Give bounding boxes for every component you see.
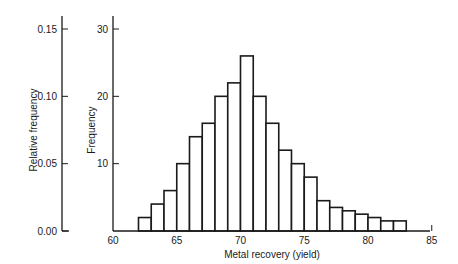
x-tick-label: 60 [107, 235, 119, 246]
histogram-bar [279, 150, 292, 231]
histogram-bar [343, 211, 356, 231]
histogram-bar [177, 164, 190, 231]
histogram-chart: 0.000.050.100.15 102030 606570758085 Met… [0, 0, 458, 264]
x-tick-label: 65 [171, 235, 183, 246]
x-tick-label: 75 [299, 235, 311, 246]
histogram-bar [381, 221, 394, 231]
rel-tick-label: 0.00 [38, 226, 58, 237]
histogram-bar [139, 218, 152, 231]
histogram-bar [228, 83, 241, 231]
y-axis-label-relative-frequency: Relative frequency [28, 89, 39, 172]
histogram-bar [292, 164, 305, 231]
histogram-bar [202, 123, 215, 231]
histogram-bar [164, 191, 177, 231]
histogram-bar [394, 221, 407, 231]
relative-frequency-axis: 0.000.050.100.15 [38, 16, 69, 237]
histogram-bars [139, 56, 407, 231]
histogram-bar [355, 214, 368, 231]
x-tick-label: 80 [362, 235, 374, 246]
freq-tick-label: 20 [97, 91, 109, 102]
rel-tick-label: 0.05 [38, 158, 58, 169]
histogram-bar [241, 56, 254, 231]
histogram-bar [317, 201, 330, 231]
rel-tick-label: 0.10 [38, 91, 58, 102]
x-tick-label: 70 [235, 235, 247, 246]
freq-tick-label: 30 [97, 24, 109, 35]
histogram-bar [253, 96, 266, 231]
freq-tick-label: 10 [97, 158, 109, 169]
rel-tick-label: 0.15 [38, 24, 58, 35]
histogram-bar [266, 123, 279, 231]
histogram-bar [151, 204, 164, 231]
x-axis-label: Metal recovery (yield) [224, 249, 320, 260]
histogram-bar [190, 137, 203, 231]
histogram-bar [215, 96, 228, 231]
histogram-bar [304, 177, 317, 231]
x-tick-label: 85 [426, 235, 438, 246]
histogram-bar [368, 218, 381, 231]
histogram-bar [330, 207, 343, 231]
y-axis-label-frequency: Frequency [86, 106, 97, 153]
frequency-axis: 102030 [97, 16, 119, 231]
